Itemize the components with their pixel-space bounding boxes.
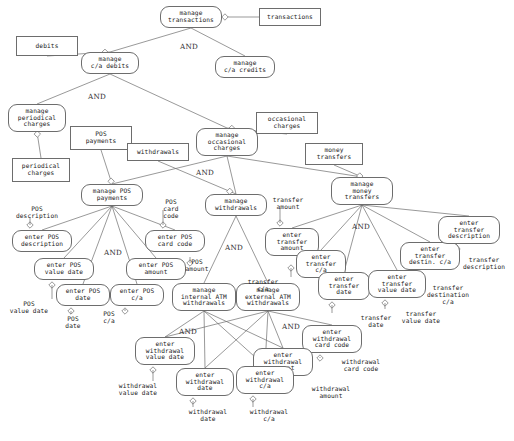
- goal-node-manage_pos_payments[interactable]: manage POS payments: [81, 184, 143, 206]
- goal-node-enter_transfer_value_date[interactable]: enter transfer value date: [368, 270, 426, 298]
- goal-node-enter_transfer_date[interactable]: enter transfer date: [318, 272, 370, 300]
- resource-label-transfer_ca: transfer c/a: [241, 278, 285, 292]
- diagram-canvas: manage transactionsmanage c/a debitsmana…: [0, 0, 514, 441]
- resource-label-withdrawal_amount: withdrawal amount: [300, 385, 362, 399]
- edge-g_manage_transactions-to-g_manage_ca_credits: [191, 28, 245, 56]
- goal-node-enter_transfer_description[interactable]: enter transfer description: [438, 216, 500, 244]
- edge-g_manage_internal_atm-to-g_enter_withdrawal_date: [204, 311, 205, 368]
- goal-node-manage_ca_debits[interactable]: manage c/a debits: [81, 52, 139, 74]
- edge-g_manage_transactions-to-g_manage_ca_debits: [110, 28, 191, 52]
- and-marker-money: AND: [352, 222, 370, 231]
- resource-label-pos_amount: POS amount: [180, 258, 214, 272]
- domain-box-transactions[interactable]: transactions: [259, 8, 321, 26]
- edge-g_manage_external_atm-to-g_enter_withdrawal_amount: [268, 311, 283, 348]
- goal-node-manage_transactions[interactable]: manage transactions: [160, 6, 222, 28]
- resource-label-pos_description: POS description: [6, 205, 68, 219]
- edge-g_manage_ca_debits-to-g_manage_occasional_charges: [110, 74, 227, 128]
- goal-node-manage_occasional_charges[interactable]: manage occasional charges: [196, 128, 258, 156]
- resource-label-pos_card_code: POS card code: [151, 198, 191, 219]
- resource-label-withdrawal_card_code: withdrawal card code: [330, 358, 392, 372]
- edge-g_manage_external_atm-to-g_enter_withdrawal_card_code: [268, 311, 332, 325]
- resource-label-pos_value_date: POS value date: [2, 300, 56, 314]
- resource-label-withdrawal_date: withdrawal date: [177, 408, 239, 422]
- and-marker-occasional: AND: [196, 168, 214, 177]
- domain-box-withdrawals[interactable]: withdrawals: [127, 143, 189, 161]
- goal-node-enter_pos_value_date[interactable]: enter POS value date: [34, 258, 94, 280]
- goal-node-enter_withdrawal_ca[interactable]: enter withdrawal c/a: [236, 366, 294, 394]
- goal-node-enter_pos_ca[interactable]: enter POS c/a: [110, 284, 164, 306]
- goal-node-manage_periodical_charges[interactable]: manage periodical charges: [8, 104, 66, 132]
- edge-g_manage_money_transfers-to-g_enter_transfer_description: [362, 205, 469, 216]
- resource-label-pos_ca: POS c/a: [93, 310, 125, 324]
- resource-label-transfer_destination_ca: transfer destination c/a: [419, 284, 477, 305]
- resource-label-withdrawal_ca: withdrawal c/a: [240, 408, 298, 422]
- goal-node-enter_withdrawal_value_date[interactable]: enter withdrawal value date: [135, 337, 195, 365]
- goal-node-manage_money_transfers[interactable]: manage money transfers: [331, 177, 393, 205]
- domain-box-periodical_charges[interactable]: periodical charges: [12, 158, 70, 182]
- domain-box-occasional_charges[interactable]: occasional charges: [256, 112, 318, 134]
- edge-g_manage_internal_atm-to-g_enter_withdrawal_amount: [204, 311, 283, 348]
- goal-node-enter_pos_amount[interactable]: enter POS amount: [126, 258, 186, 280]
- and-marker-pos_payments: AND: [104, 248, 122, 257]
- resource-label-transfer_date: transfer date: [353, 314, 399, 328]
- goal-node-enter_pos_description[interactable]: enter POS description: [12, 230, 72, 252]
- goal-node-enter_withdrawal_date[interactable]: enter withdrawal date: [176, 368, 234, 396]
- domain-box-pos_payments[interactable]: POS payments: [70, 126, 132, 150]
- goal-node-enter_pos_card_code[interactable]: enter POS card code: [145, 230, 205, 252]
- and-marker-withdrawals: AND: [225, 243, 243, 252]
- goal-node-manage_internal_atm[interactable]: manage internal ATM withdrawals: [172, 283, 236, 311]
- resource-label-withdrawal_value_date: withdrawal value date: [107, 382, 169, 396]
- and-marker-ca_debits: AND: [88, 92, 106, 101]
- domain-box-debits[interactable]: debits: [16, 36, 78, 56]
- goal-node-enter_pos_date[interactable]: enter POS date: [56, 284, 110, 306]
- resource-label-transfer_amount: transfer amount: [264, 196, 312, 210]
- goal-node-enter_transfer_destin_ca[interactable]: enter transfer destin. c/a: [400, 242, 460, 270]
- and-marker-internal_atm: AND: [179, 327, 197, 336]
- resource-label-transfer_value_date: transfer value date: [395, 310, 447, 324]
- goal-node-manage_withdrawals[interactable]: manage withdrawals: [205, 194, 267, 216]
- goal-node-manage_ca_credits[interactable]: manage c/a credits: [215, 56, 275, 78]
- edge-g_manage_occasional_charges-to-g_manage_withdrawals: [227, 156, 236, 194]
- goal-node-enter_withdrawal_card_code[interactable]: enter withdrawal card code: [302, 325, 362, 353]
- resource-label-transfer_description: transfer description: [456, 256, 512, 270]
- and-marker-transactions: AND: [180, 42, 198, 51]
- dependency-marker-g_manage_transactions: [222, 14, 228, 20]
- and-marker-external_atm: AND: [282, 322, 300, 331]
- domain-box-money_transfers[interactable]: money transfers: [305, 143, 363, 165]
- resource-label-pos_date: POS date: [57, 315, 89, 329]
- dep-link-d_withdrawals-g_manage_withdrawals: [158, 161, 236, 194]
